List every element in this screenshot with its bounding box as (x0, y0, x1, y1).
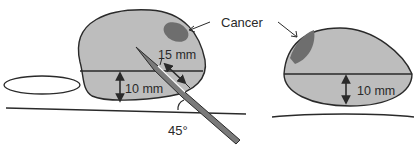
diagram-canvas: 15 mm 10 mm 45° Cancer 10 mm (0, 0, 416, 152)
ground-line (6, 108, 246, 114)
thickness-label-right: 10 mm (357, 84, 395, 98)
cancer-pointer-right (278, 22, 297, 37)
angle-arc (178, 100, 184, 110)
cancer-pointer-left (190, 22, 210, 30)
angle-label: 45° (168, 123, 188, 138)
thickness-label-left: 10 mm (125, 82, 163, 96)
skin-flap (4, 76, 80, 94)
right-panel: Cancer 10 mm (221, 15, 414, 117)
left-panel: 15 mm 10 mm 45° (4, 10, 246, 144)
ground-line-right (272, 114, 414, 117)
cancer-label: Cancer (221, 15, 264, 30)
depth-label: 15 mm (158, 48, 196, 62)
